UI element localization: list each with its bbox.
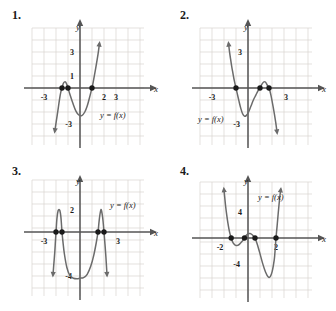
- x-tick-label: -2: [217, 243, 224, 252]
- y-tick-label: 3: [238, 48, 242, 57]
- graph-4: -224-4y = f(x)yx: [190, 174, 330, 304]
- x-tick-label: 3: [114, 93, 118, 102]
- graph-1-svg: -32331-3y = f(x)yx: [22, 18, 162, 148]
- y-axis-letter: y: [243, 176, 248, 186]
- graph-2-svg: -333-3y = f(x)yx: [190, 18, 330, 148]
- zero-dot[interactable]: [53, 229, 58, 234]
- function-label: y = f(x): [99, 110, 126, 120]
- curve-arrow-left: [51, 272, 56, 278]
- x-tick-label: 3: [116, 237, 120, 246]
- graph-4-svg: -224-4y = f(x)yx: [190, 174, 330, 304]
- function-label: y = f(x): [109, 200, 136, 210]
- y-axis-letter: y: [75, 22, 80, 32]
- x-tick-label: -3: [41, 237, 48, 246]
- problem-panel-4: 4. -224-4y = f(x)yx: [168, 156, 336, 311]
- x-axis-letter: x: [153, 228, 158, 238]
- curve-arrow-left: [53, 128, 58, 134]
- zero-dot[interactable]: [229, 235, 234, 240]
- x-tick-label: -3: [41, 93, 48, 102]
- grid-lines: [32, 28, 144, 145]
- problem-panel-1: 1. -32331-3y = f(x)yx: [0, 0, 168, 155]
- graph-2: -333-3y = f(x)yx: [190, 18, 330, 148]
- curve-arrow-right: [96, 41, 101, 47]
- zero-dot[interactable]: [273, 235, 278, 240]
- curve-arrow-right: [274, 129, 279, 135]
- problem-number-4: 4.: [180, 164, 189, 179]
- zero-dot[interactable]: [59, 229, 64, 234]
- problem-panel-3: 3. -332-4y = f(x)yx: [0, 156, 168, 311]
- grid-lines: [200, 28, 312, 145]
- zero-dot[interactable]: [89, 85, 94, 90]
- problem-number-1: 1.: [12, 8, 21, 23]
- x-tick-label: 3: [284, 93, 288, 102]
- function-label: y = f(x): [257, 192, 284, 202]
- zero-dot[interactable]: [59, 85, 64, 90]
- y-axis-letter: y: [75, 176, 80, 186]
- zero-dot[interactable]: [242, 235, 247, 240]
- zero-dot[interactable]: [252, 235, 257, 240]
- y-tick-label: 4: [238, 208, 242, 217]
- y-tick-label: -4: [233, 260, 240, 269]
- x-tick-label: -3: [209, 93, 216, 102]
- zero-dot[interactable]: [233, 85, 238, 90]
- graph-1: -32331-3y = f(x)yx: [22, 18, 162, 148]
- zero-dot[interactable]: [95, 229, 100, 234]
- x-axis-letter: x: [321, 234, 326, 244]
- zero-dot[interactable]: [101, 229, 106, 234]
- zero-dot[interactable]: [65, 85, 70, 90]
- problem-number-3: 3.: [12, 164, 21, 179]
- curve-arrow-right: [104, 272, 109, 278]
- y-axis-letter: y: [243, 22, 248, 32]
- problem-number-2: 2.: [180, 8, 189, 23]
- y-tick-label: -3: [65, 120, 72, 129]
- function-label: y = f(x): [197, 114, 224, 124]
- problem-panel-2: 2. -333-3y = f(x)yx: [168, 0, 336, 155]
- zero-dot[interactable]: [266, 85, 271, 90]
- grid-lines: [32, 180, 144, 296]
- x-tick-label: 2: [102, 93, 106, 102]
- graph-3: -332-4y = f(x)yx: [22, 174, 162, 304]
- x-axis-letter: x: [321, 84, 326, 94]
- y-tick-label: 2: [70, 206, 74, 215]
- y-tick-label: -3: [233, 120, 240, 129]
- curve-arrow-left: [226, 41, 231, 47]
- graph-3-svg: -332-4y = f(x)yx: [22, 174, 162, 304]
- worksheet-page: 1. -32331-3y = f(x)yx 2. -333-3y = f(x)y…: [0, 0, 336, 311]
- zero-dot[interactable]: [257, 85, 262, 90]
- x-axis-letter: x: [153, 84, 158, 94]
- y-tick-label: 1: [70, 72, 74, 81]
- y-tick-label: 3: [70, 48, 74, 57]
